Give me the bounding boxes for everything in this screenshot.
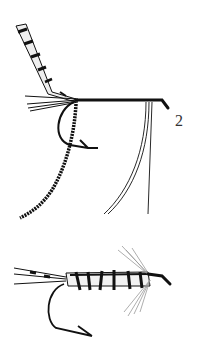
hackle-fibres — [104, 102, 152, 214]
hook-bend — [48, 284, 92, 336]
fly-4-drawing — [0, 230, 198, 342]
barred-tail — [14, 268, 66, 284]
hook-shank — [76, 100, 168, 108]
fly-illustration-2: 2 — [0, 0, 198, 230]
fly-2-drawing — [0, 0, 198, 230]
fly-head — [148, 274, 170, 284]
body-strand — [20, 104, 76, 218]
figure-label-2: 2 — [175, 112, 183, 130]
barred-feather-wing — [16, 24, 76, 101]
fly-illustration-4: 4 — [0, 230, 198, 342]
hook-bend — [58, 102, 98, 148]
ribbed-body — [66, 270, 150, 290]
